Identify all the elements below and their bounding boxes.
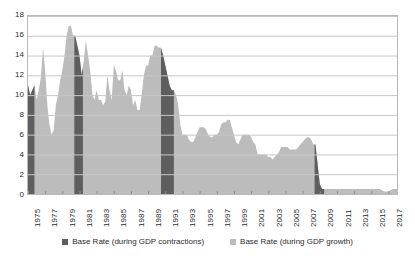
- x-tick-label: 1999: [241, 209, 249, 227]
- base-rate-area-chart: 181614121086420 197519771979198119831985…: [0, 0, 415, 262]
- x-tick-label: 2001: [258, 209, 266, 227]
- legend-label-contractions: Base Rate (during GDP contractions): [72, 237, 204, 246]
- x-tick-label: 1985: [120, 209, 128, 227]
- legend-label-growth: Base Rate (during GDP growth): [240, 237, 353, 246]
- x-tick-label: 2017: [396, 209, 404, 227]
- y-tick-label: 18: [0, 11, 24, 19]
- x-tick-label: 2007: [310, 209, 318, 227]
- x-tick-label: 2015: [379, 209, 387, 227]
- x-tick-label: 2011: [345, 209, 353, 227]
- y-tick-label: 12: [0, 71, 24, 79]
- x-tick-label: 2005: [293, 209, 301, 227]
- plot-area: [27, 15, 398, 195]
- x-tick-label: 1991: [172, 209, 180, 227]
- x-tick-label: 1979: [69, 209, 77, 227]
- y-tick-label: 10: [0, 91, 24, 99]
- y-tick-label: 14: [0, 51, 24, 59]
- y-tick-label: 16: [0, 31, 24, 39]
- x-tick-label: 2003: [276, 209, 284, 227]
- x-tick-label: 1989: [155, 209, 163, 227]
- x-tick-label: 1981: [86, 209, 94, 227]
- x-tick-label: 1995: [207, 209, 215, 227]
- x-axis-tick-marks: [28, 16, 397, 194]
- x-tick-label: 2009: [327, 209, 335, 227]
- y-axis: 181614121086420: [0, 15, 24, 195]
- x-tick-label: 1987: [138, 209, 146, 227]
- y-tick-label: 8: [0, 111, 24, 119]
- y-tick-label: 2: [0, 171, 24, 179]
- legend-swatch-contractions-icon: [62, 239, 68, 245]
- y-tick-label: 0: [0, 191, 24, 199]
- legend-item-growth: Base Rate (during GDP growth): [230, 237, 353, 246]
- y-tick-label: 4: [0, 151, 24, 159]
- x-tick-label: 1993: [189, 209, 197, 227]
- x-tick-label: 1983: [103, 209, 111, 227]
- legend-swatch-growth-icon: [230, 239, 236, 245]
- y-tick-label: 6: [0, 131, 24, 139]
- x-tick-label: 2013: [362, 209, 370, 227]
- x-axis: 1975197719791981198319851987198919911993…: [27, 197, 398, 231]
- x-tick-label: 1997: [224, 209, 232, 227]
- x-tick-label: 1977: [51, 209, 59, 227]
- legend-item-contractions: Base Rate (during GDP contractions): [62, 237, 204, 246]
- x-tick-label: 1975: [34, 209, 42, 227]
- chart-legend: Base Rate (during GDP contractions) Base…: [0, 237, 415, 246]
